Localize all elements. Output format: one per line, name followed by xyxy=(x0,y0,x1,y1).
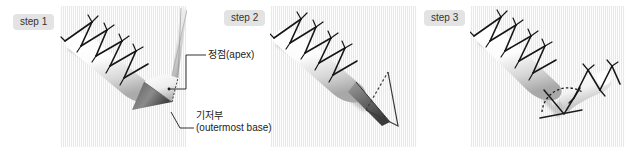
base-annotation-line1: 기저부 xyxy=(196,110,223,121)
step-3-label: step 3 xyxy=(424,10,465,26)
step-1-label: step 1 xyxy=(13,14,54,30)
base-annotation: 기저부 (outermost base) xyxy=(196,110,272,134)
apex-annotation: 정점(apex) xyxy=(208,49,254,61)
base-annotation-line2: (outermost base) xyxy=(196,122,272,134)
figure-root: step 1 step 2 step 3 정점(apex) 기저부 (outer… xyxy=(0,0,635,153)
step-2-label: step 2 xyxy=(224,10,265,26)
step-2-illustration xyxy=(270,6,417,147)
step-3-illustration xyxy=(470,6,625,147)
step-2-panel xyxy=(270,6,417,147)
step-1-panel xyxy=(60,6,187,147)
step-1-illustration xyxy=(60,6,187,147)
step-3-panel xyxy=(470,6,625,147)
apex-annotation-text: 정점(apex) xyxy=(208,49,254,60)
